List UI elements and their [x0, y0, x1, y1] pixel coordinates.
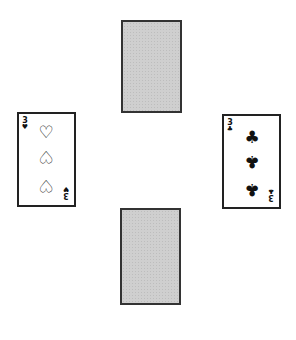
- club-icon: ♣: [242, 128, 262, 146]
- card-index-top-left: 3 ♣: [226, 119, 234, 133]
- rank-label: 3: [62, 192, 70, 199]
- north-card-back[interactable]: [121, 20, 182, 113]
- south-card-back[interactable]: [120, 208, 181, 305]
- club-icon: ♣: [242, 181, 262, 199]
- card-index-top-left: 3 ♥: [21, 117, 29, 131]
- card-index-bottom-right: 3 ♣: [267, 187, 275, 201]
- east-card-three-of-clubs[interactable]: 3 ♣ ♣ ♣ ♣ 3 ♣: [222, 114, 281, 209]
- card-index-bottom-right: 3 ♥: [62, 185, 70, 199]
- heart-icon: ♥: [21, 124, 29, 131]
- rank-label: 3: [267, 194, 275, 201]
- club-icon: ♣: [267, 187, 275, 194]
- club-icon: ♣: [226, 126, 234, 133]
- west-card-three-of-hearts[interactable]: 3 ♥ ♡ ♡ ♡ 3 ♥: [17, 112, 76, 207]
- heart-icon: ♡: [36, 148, 56, 166]
- heart-icon: ♡: [36, 177, 56, 195]
- heart-icon: ♡: [36, 123, 56, 141]
- heart-icon: ♥: [62, 185, 70, 192]
- club-icon: ♣: [242, 153, 262, 171]
